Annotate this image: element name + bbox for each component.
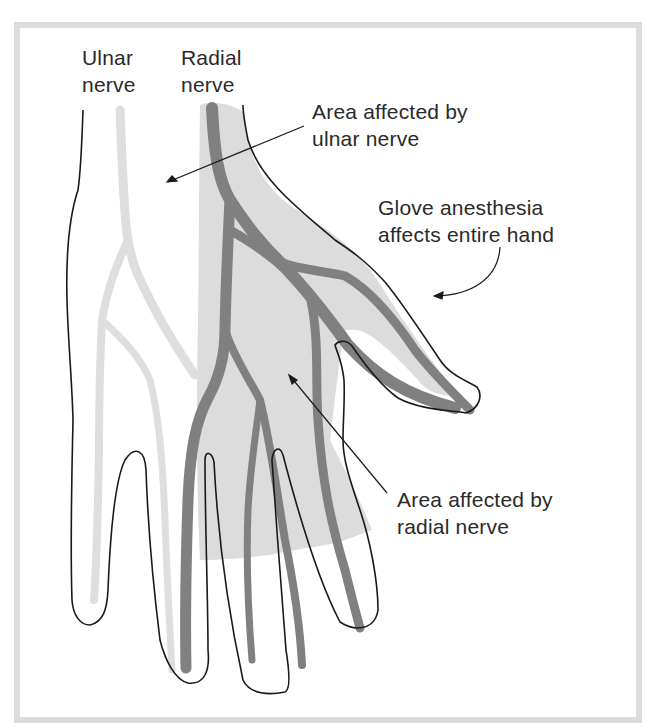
radial-nerve-label-line1: Radial xyxy=(181,44,242,71)
radial-area-label-line2: radial nerve xyxy=(397,513,553,540)
ulnar-area-label-line2: ulnar nerve xyxy=(312,125,468,152)
ulnar-area-label: Area affected by ulnar nerve xyxy=(312,98,468,152)
ulnar-nerve-label-line2: nerve xyxy=(82,71,136,98)
radial-nerve-label: Radial nerve xyxy=(181,44,242,98)
ulnar-nerve-label: Ulnar nerve xyxy=(82,44,136,98)
ulnar-nerve xyxy=(94,110,195,670)
ulnar-nerve-label-line1: Ulnar xyxy=(82,44,136,71)
radial-nerve-label-line2: nerve xyxy=(181,71,242,98)
glove-label-line1: Glove anesthesia xyxy=(378,194,554,221)
glove-anesthesia-label: Glove anesthesia affects entire hand xyxy=(378,194,554,248)
glove-label-line2: affects entire hand xyxy=(378,221,554,248)
radial-area-label: Area affected by radial nerve xyxy=(397,486,553,540)
ulnar-area-label-line1: Area affected by xyxy=(312,98,468,125)
radial-area-label-line1: Area affected by xyxy=(397,486,553,513)
glove-leader xyxy=(436,247,500,296)
